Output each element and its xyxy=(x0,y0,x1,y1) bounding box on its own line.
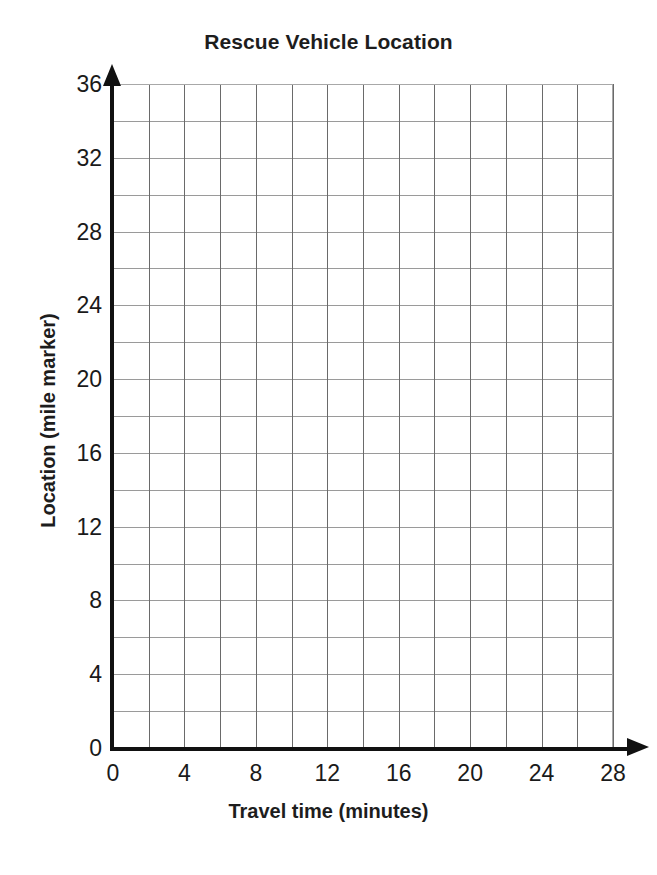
x-axis-line xyxy=(110,747,633,751)
plot-border-right xyxy=(612,84,613,748)
chart-figure: Rescue Vehicle Location 0481216202428323… xyxy=(0,0,657,875)
gridline-vertical xyxy=(149,84,150,748)
gridline-vertical xyxy=(256,84,257,748)
y-axis-title: Location (mile marker) xyxy=(37,89,60,753)
gridline-vertical xyxy=(577,84,578,748)
plot-border-top xyxy=(113,84,613,85)
gridline-vertical xyxy=(292,84,293,748)
x-axis-tick-label: 20 xyxy=(440,762,500,785)
gridline-vertical xyxy=(542,84,543,748)
vertical-gridlines xyxy=(113,84,613,748)
x-axis-tick-label: 4 xyxy=(154,762,214,785)
x-axis-tick-labels: 0481216202428 xyxy=(0,762,657,796)
gridline-horizontal xyxy=(113,490,613,491)
gridline-vertical xyxy=(399,84,400,748)
gridline-vertical xyxy=(184,84,185,748)
gridline-vertical xyxy=(434,84,435,748)
gridline-horizontal xyxy=(113,121,613,122)
x-axis-tick-label: 24 xyxy=(512,762,572,785)
gridline-vertical xyxy=(613,84,614,748)
gridline-vertical xyxy=(363,84,364,748)
gridline-vertical xyxy=(220,84,221,748)
gridline-horizontal xyxy=(113,305,613,306)
gridline-horizontal xyxy=(113,268,613,269)
gridline-horizontal xyxy=(113,453,613,454)
gridline-horizontal xyxy=(113,711,613,712)
x-axis-tick-label: 12 xyxy=(297,762,357,785)
gridline-horizontal xyxy=(113,232,613,233)
y-axis-arrow-icon xyxy=(103,64,121,86)
gridline-horizontal xyxy=(113,379,613,380)
plot-area[interactable] xyxy=(113,84,613,748)
x-axis-tick-label: 16 xyxy=(369,762,429,785)
gridline-horizontal xyxy=(113,158,613,159)
x-axis-tick-label: 0 xyxy=(83,762,143,785)
gridline-vertical xyxy=(470,84,471,748)
gridline-vertical xyxy=(506,84,507,748)
x-axis-tick-label: 28 xyxy=(583,762,643,785)
gridline-horizontal xyxy=(113,600,613,601)
gridline-horizontal xyxy=(113,416,613,417)
x-axis-title: Travel time (minutes) xyxy=(0,800,657,823)
gridline-horizontal xyxy=(113,84,613,85)
gridline-horizontal xyxy=(113,342,613,343)
gridline-horizontal xyxy=(113,637,613,638)
gridline-horizontal xyxy=(113,195,613,196)
gridline-horizontal xyxy=(113,674,613,675)
y-axis-line xyxy=(110,84,114,751)
gridline-horizontal xyxy=(113,564,613,565)
gridline-horizontal xyxy=(113,527,613,528)
gridline-vertical xyxy=(327,84,328,748)
plot-border xyxy=(113,84,613,748)
horizontal-gridlines xyxy=(113,84,613,748)
x-axis-tick-label: 8 xyxy=(226,762,286,785)
x-axis-arrow-icon xyxy=(627,738,649,756)
